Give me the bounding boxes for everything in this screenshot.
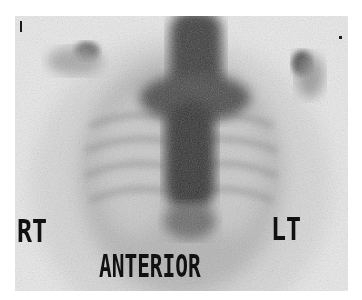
left-side-label: LT: [271, 213, 301, 245]
corner-dot-marker: [339, 36, 342, 39]
orientation-tick-mark: [20, 21, 22, 32]
view-label: ANTERIOR: [99, 250, 201, 282]
right-side-label: RT: [17, 215, 47, 247]
